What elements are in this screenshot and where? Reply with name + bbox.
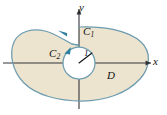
- figure-container: y x C1 C2 D 1: [0, 0, 167, 115]
- y-axis-label: y: [79, 2, 84, 13]
- outer-curve-label-subscript: 2: [57, 52, 61, 61]
- x-axis-label: x: [153, 56, 158, 67]
- radius-length-label: 1: [84, 49, 89, 58]
- outer-curve-label: C2: [49, 48, 60, 61]
- inner-curve-label-letter: C: [83, 25, 90, 37]
- region-label: D: [107, 70, 115, 81]
- inner-curve-label-subscript: 1: [91, 30, 95, 39]
- inner-curve-label: C1: [83, 26, 94, 39]
- outer-curve-label-letter: C: [49, 47, 56, 59]
